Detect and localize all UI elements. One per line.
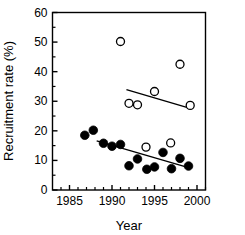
open-circle-marker [186,101,194,109]
recruitment-rate-scatter-plot: 1985199019952000 0102030405060 Year Recr… [0,0,245,235]
filled-circle-marker [81,131,90,140]
y-tick-label: 30 [34,94,48,108]
open-circle-series [117,37,195,151]
filled-circle-marker [89,126,98,135]
filled-circle-marker [108,142,117,151]
y-axis-tick-labels: 0102030405060 [34,6,48,198]
open-circle-marker [142,143,150,151]
filled-circle-marker [125,161,134,170]
open-circle-marker [117,37,125,45]
y-axis-ticks [53,13,58,191]
filled-circle-marker [159,148,168,157]
open-circle-marker [151,87,159,95]
x-tick-label: 1985 [56,194,83,208]
y-tick-label: 50 [34,35,48,49]
filled-circle-marker [116,140,125,149]
x-axis-ticks [61,185,206,190]
filled-circle-marker [184,162,193,171]
filled-circle-marker [133,155,142,164]
x-tick-label: 2000 [184,194,211,208]
x-axis-title: Year [116,218,143,233]
chart-figure: 1985199019952000 0102030405060 Year Recr… [0,0,245,235]
y-tick-label: 40 [34,65,48,79]
x-tick-label: 1995 [141,194,168,208]
open-circle-marker [125,99,133,107]
y-tick-label: 60 [34,6,48,20]
x-axis-tick-labels: 1985199019952000 [56,194,211,208]
filled-circle-marker [99,139,108,148]
filled-circle-marker [176,154,185,163]
y-tick-label: 10 [34,153,48,167]
y-axis-title: Recruitment rate (%) [1,41,16,161]
filled-circle-series [81,126,193,174]
y-tick-label: 20 [34,124,48,138]
y-tick-label: 0 [41,183,48,197]
open-circle-marker [176,60,184,68]
open-circle-marker [167,139,175,147]
x-tick-label: 1990 [99,194,126,208]
filled-circle-marker [167,164,176,173]
open-circle-marker [134,101,142,109]
filled-circle-marker [150,163,159,172]
